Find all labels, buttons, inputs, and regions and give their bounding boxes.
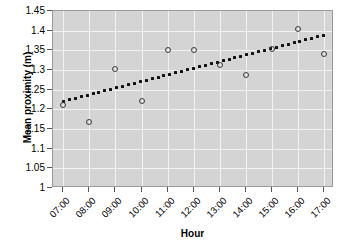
x-axis-tick-mark	[141, 187, 142, 192]
y-axis-tick-mark	[47, 128, 52, 129]
x-axis-tick-mark	[271, 187, 272, 192]
data-point-series	[53, 11, 332, 186]
x-axis-tick-mark	[219, 187, 220, 192]
y-axis-tick-label: 1.35	[26, 44, 45, 55]
y-axis-tick-mark	[47, 49, 52, 50]
y-axis-tick-mark	[47, 108, 52, 109]
y-axis-tick-mark	[47, 30, 52, 31]
x-axis-title: Hour	[52, 228, 333, 239]
data-point-marker	[86, 119, 92, 125]
y-axis-tick-mark	[47, 148, 52, 149]
x-axis-tick-mark	[193, 187, 194, 192]
y-axis-tick-label: 1.4	[31, 24, 45, 35]
y-axis-tick-mark	[47, 10, 52, 11]
y-axis-tick-label: 1.3	[31, 64, 45, 75]
y-axis-tick-label: 1.1	[31, 142, 45, 153]
x-axis-tick-mark	[323, 187, 324, 192]
x-axis-tick-mark	[167, 187, 168, 192]
x-axis-tick-mark	[88, 187, 89, 192]
x-axis-tick-mark	[62, 187, 63, 192]
data-point-marker	[217, 62, 223, 68]
x-axis-tick-mark	[297, 187, 298, 192]
x-axis-tick-mark	[245, 187, 246, 192]
data-point-marker	[295, 26, 301, 32]
chart-figure: Mean proximity (m) 11.051.11.151.21.251.…	[0, 0, 346, 247]
data-point-marker	[165, 47, 171, 53]
y-axis-tick-label: 1.45	[26, 5, 45, 16]
x-axis-tick-label: 10:00	[117, 195, 150, 228]
plot-area	[52, 10, 333, 187]
y-axis-tick-label: 1.05	[26, 162, 45, 173]
y-axis-tick-label: 1	[39, 182, 45, 193]
data-point-marker	[139, 98, 145, 104]
y-axis-tick-label: 1.15	[26, 123, 45, 134]
y-axis-tick-mark	[47, 89, 52, 90]
data-point-marker	[191, 47, 197, 53]
y-axis-tick-mark	[47, 69, 52, 70]
y-axis-title: Mean proximity (m)	[22, 18, 33, 178]
y-axis-tick-mark	[47, 187, 52, 188]
data-point-marker	[60, 102, 66, 108]
data-point-marker	[243, 72, 249, 78]
data-point-marker	[269, 46, 275, 52]
y-axis-tick-label: 1.2	[31, 103, 45, 114]
data-point-marker	[321, 51, 327, 57]
y-axis-tick-mark	[47, 167, 52, 168]
data-point-marker	[112, 66, 118, 72]
x-axis-tick-mark	[114, 187, 115, 192]
y-axis-tick-label: 1.25	[26, 83, 45, 94]
